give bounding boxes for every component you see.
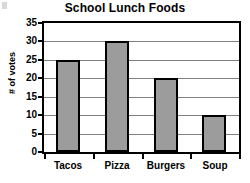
y-axis-tick-label: 5 bbox=[11, 129, 37, 139]
plot-area bbox=[42, 21, 241, 154]
chart-title: School Lunch Foods bbox=[0, 1, 250, 15]
x-axis-tick-label: Tacos bbox=[54, 160, 82, 171]
plot-inner bbox=[44, 23, 239, 152]
x-axis-tick-label: Pizza bbox=[104, 160, 129, 171]
x-axis-tick-mark bbox=[190, 154, 192, 159]
y-axis-tick-label: 35 bbox=[11, 18, 37, 28]
gridline bbox=[44, 41, 239, 42]
x-axis-tick-mark bbox=[44, 154, 46, 159]
y-axis-tick-label: 25 bbox=[11, 55, 37, 65]
x-axis-tick-mark bbox=[142, 154, 144, 159]
x-axis-tick-mark bbox=[93, 154, 95, 159]
bar-chart: School Lunch Foods # of votes 0510152025… bbox=[0, 0, 250, 183]
y-axis-tick-label: 10 bbox=[11, 110, 37, 120]
bar-soup bbox=[202, 115, 226, 152]
y-axis-tick-label: 0 bbox=[11, 147, 37, 157]
y-axis-tick-label: 20 bbox=[11, 73, 37, 83]
x-axis-tick-mark bbox=[239, 154, 241, 159]
y-axis-tick-label: 15 bbox=[11, 92, 37, 102]
bar-pizza bbox=[105, 41, 129, 152]
x-axis-tick-label: Burgers bbox=[147, 160, 185, 171]
bar-burgers bbox=[154, 78, 178, 152]
bar-tacos bbox=[56, 60, 80, 152]
x-axis-tick-label: Soup bbox=[203, 160, 228, 171]
y-axis-tick-label: 30 bbox=[11, 36, 37, 46]
